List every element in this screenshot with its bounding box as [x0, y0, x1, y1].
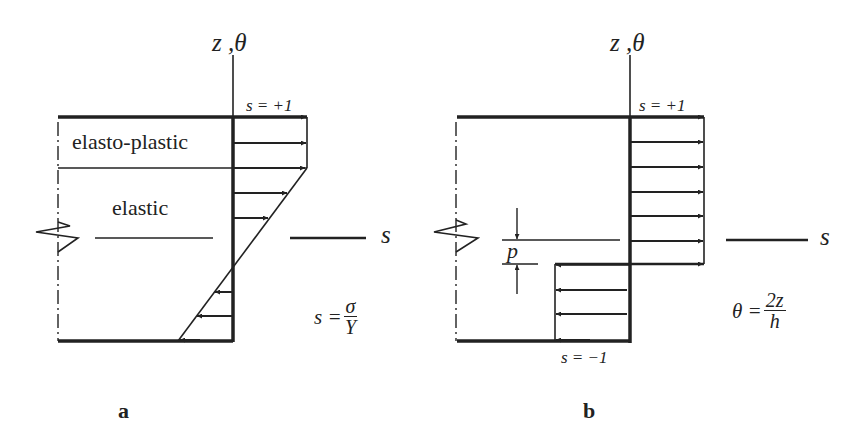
formula-numerator: 2z	[764, 290, 786, 311]
formula-b: θ = 2z h	[732, 290, 786, 332]
panel-label-a: a	[118, 400, 129, 422]
offset-label-p: p	[507, 240, 518, 262]
region-label-elastic: elastic	[112, 197, 168, 219]
top-value-label-a: s = +1	[246, 97, 293, 114]
formula-numerator: σ	[344, 296, 358, 317]
top-value-label-b: s = +1	[639, 97, 686, 114]
break-zigzag-a	[36, 222, 78, 252]
formula-lhs: s =	[314, 305, 342, 330]
formula-lhs: θ =	[732, 299, 762, 324]
panel-label-b: b	[583, 400, 595, 422]
formula-denominator: h	[770, 311, 780, 332]
axis-label-b: z ,θ	[610, 30, 645, 55]
formula-denominator: Y	[345, 317, 356, 338]
bottom-value-label-b: s = −1	[561, 349, 608, 366]
diagram-canvas	[0, 0, 857, 447]
s-axis-label-a: s	[381, 222, 391, 247]
s-axis-label-b: s	[820, 224, 830, 249]
region-label-elasto-plastic: elasto-plastic	[72, 131, 188, 153]
formula-a: s = σ Y	[314, 296, 357, 338]
axis-label-a: z ,θ	[212, 30, 247, 55]
